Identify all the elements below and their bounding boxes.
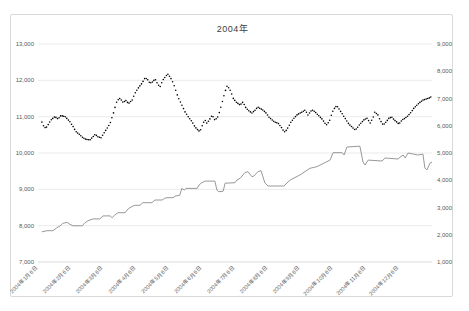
black-dotted-daily-series-point: [208, 121, 210, 123]
black-dotted-daily-series-point: [91, 137, 93, 139]
black-dotted-daily-series-point: [377, 114, 379, 116]
x-axis-tick-label: 2004年12月6日: [367, 264, 401, 298]
black-dotted-daily-series-point: [169, 76, 171, 78]
black-dotted-daily-series-point: [187, 116, 189, 118]
black-dotted-daily-series-point: [127, 102, 129, 104]
black-dotted-daily-series-point: [329, 120, 331, 122]
black-dotted-daily-series-point: [271, 119, 273, 121]
black-dotted-daily-series-point: [177, 94, 179, 96]
black-dotted-daily-series-point: [147, 79, 149, 81]
black-dotted-daily-series-point: [312, 110, 314, 112]
y-axis-left-tick-label: 13,000: [16, 41, 35, 47]
black-dotted-daily-series-point: [321, 118, 323, 120]
black-dotted-daily-series-point: [231, 93, 233, 95]
black-dotted-daily-series-point: [415, 106, 417, 108]
black-dotted-daily-series-point: [292, 120, 294, 122]
black-dotted-daily-series-point: [278, 123, 280, 125]
black-dotted-daily-series-point: [281, 127, 283, 129]
black-dotted-daily-series-point: [268, 116, 270, 118]
black-dotted-daily-series-point: [254, 109, 256, 111]
black-dotted-daily-series-point: [374, 112, 376, 114]
black-dotted-daily-series-point: [131, 99, 133, 101]
black-dotted-daily-series-point: [338, 108, 340, 110]
black-dotted-daily-series-point: [191, 120, 193, 122]
black-dotted-daily-series-point: [236, 102, 238, 104]
black-dotted-daily-series-point: [49, 121, 51, 123]
black-dotted-daily-series-point: [102, 135, 104, 137]
black-dotted-daily-series-point: [63, 116, 65, 118]
black-dotted-daily-series-point: [119, 98, 121, 100]
y-axis-right-tick-label: 7,000: [437, 96, 453, 102]
black-dotted-daily-series-point: [212, 116, 214, 118]
black-dotted-daily-series-point: [198, 130, 200, 132]
y-axis-left-tick-label: 12,000: [16, 77, 35, 83]
black-dotted-daily-series-point: [425, 98, 427, 100]
black-dotted-daily-series-point: [149, 81, 151, 83]
black-dotted-daily-series-point: [200, 129, 202, 131]
black-dotted-daily-series-point: [253, 111, 255, 113]
black-dotted-daily-series-point: [47, 124, 49, 126]
black-dotted-daily-series-point: [293, 118, 295, 120]
black-dotted-daily-series-point: [366, 117, 368, 119]
black-dotted-daily-series-point: [60, 115, 62, 117]
black-dotted-daily-series-point: [82, 136, 84, 138]
black-dotted-daily-series-point: [173, 85, 175, 87]
black-dotted-daily-series-point: [88, 139, 90, 141]
black-dotted-daily-series-point: [80, 135, 82, 137]
black-dotted-daily-series-point: [128, 102, 130, 104]
black-dotted-daily-series-point: [380, 121, 382, 123]
black-dotted-daily-series-point: [222, 101, 224, 103]
black-dotted-daily-series-point: [108, 125, 110, 127]
black-dotted-daily-series-point: [195, 127, 197, 129]
black-dotted-daily-series-point: [385, 122, 387, 124]
black-dotted-daily-series-point: [301, 111, 303, 113]
black-dotted-daily-series-point: [46, 126, 48, 128]
black-dotted-daily-series-point: [265, 112, 267, 114]
black-dotted-daily-series-point: [248, 110, 250, 112]
black-dotted-daily-series-point: [411, 110, 413, 112]
black-dotted-daily-series-point: [418, 103, 420, 105]
black-dotted-daily-series-point: [239, 104, 241, 106]
black-dotted-daily-series-point: [153, 80, 155, 82]
black-dotted-daily-series-point: [354, 129, 356, 131]
black-dotted-daily-series-point: [245, 107, 247, 109]
black-dotted-daily-series-point: [163, 79, 165, 81]
black-dotted-daily-series-point: [99, 136, 101, 138]
black-dotted-daily-series-point: [158, 84, 160, 86]
black-dotted-daily-series-point: [340, 111, 342, 113]
black-dotted-daily-series-point: [57, 118, 59, 120]
black-dotted-daily-series-point: [256, 108, 258, 110]
black-dotted-daily-series-point: [365, 118, 367, 120]
black-dotted-daily-series-point: [58, 117, 60, 119]
black-dotted-daily-series-point: [167, 73, 169, 75]
black-dotted-daily-series-point: [192, 122, 194, 124]
black-dotted-daily-series-point: [54, 116, 56, 118]
black-dotted-daily-series-point: [142, 81, 144, 83]
black-dotted-daily-series-point: [164, 77, 166, 79]
black-dotted-daily-series-point: [250, 111, 252, 113]
black-dotted-daily-series-point: [262, 109, 264, 111]
black-dotted-daily-series-point: [170, 78, 172, 80]
black-dotted-daily-series-point: [107, 127, 109, 129]
black-dotted-daily-series-point: [178, 98, 180, 100]
black-dotted-daily-series-point: [295, 116, 297, 118]
black-dotted-daily-series-point: [96, 135, 98, 137]
black-dotted-daily-series-point: [111, 117, 113, 119]
black-dotted-daily-series-point: [296, 114, 298, 116]
black-dotted-daily-series-point: [61, 115, 63, 117]
black-dotted-daily-series-point: [326, 124, 328, 126]
black-dotted-daily-series-point: [405, 117, 407, 119]
x-axis-tick-label: 2004年8月6日: [238, 264, 269, 295]
black-dotted-daily-series-point: [273, 121, 275, 123]
black-dotted-daily-series-point: [100, 137, 102, 139]
black-dotted-daily-series-point: [402, 119, 404, 121]
black-dotted-daily-series-point: [284, 131, 286, 133]
black-dotted-daily-series-point: [424, 99, 426, 101]
black-dotted-daily-series-point: [197, 129, 199, 131]
y-axis-right-tick-label: 9,000: [437, 41, 453, 47]
black-dotted-daily-series-point: [159, 86, 161, 88]
black-dotted-daily-series-point: [363, 119, 365, 121]
black-dotted-daily-series-point: [206, 122, 208, 124]
x-axis-tick-label: 2004年2月6日: [41, 264, 72, 295]
black-dotted-daily-series-point: [141, 83, 143, 85]
